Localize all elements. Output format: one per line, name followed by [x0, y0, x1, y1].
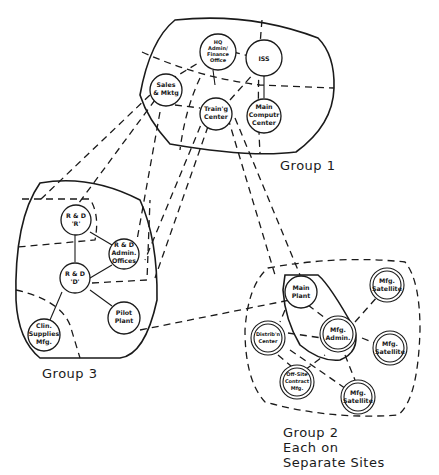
node-rd-d: R & D 'D' [60, 263, 90, 293]
svg-text:R & D: R & D [65, 270, 85, 277]
svg-text:'R': 'R' [72, 220, 81, 227]
node-mfg-satellite-2: Mfg. Satellite [373, 331, 407, 365]
link-sales-rd [70, 100, 155, 215]
svg-text:'D': 'D' [70, 278, 79, 285]
link-training-mainplant-2 [235, 118, 300, 275]
svg-text:Offices: Offices [112, 257, 136, 264]
svg-text:Sales: Sales [157, 81, 176, 88]
node-main-computer-center: Main Computr Center [247, 99, 281, 133]
svg-text:Distrib'n: Distrib'n [256, 331, 281, 337]
node-offsite-contract-mfg: Off-Site Contract Mfg. [280, 365, 314, 399]
node-mfg-satellite-3: Mfg. Satellite [341, 380, 375, 414]
svg-text:Mfg.: Mfg. [350, 389, 366, 397]
link-mainplant-distrib [280, 310, 285, 322]
svg-text:Supplies: Supplies [29, 330, 60, 338]
link-training-iss [230, 72, 255, 100]
node-mfg-satellite-1: Mfg. Satellite [370, 268, 404, 302]
link-sales-training [175, 105, 200, 108]
diagram-svg: HQ Admin/ Finance Office ISS Sales & Mkt… [0, 0, 439, 475]
node-rd-r: R & D 'R' [61, 205, 91, 235]
group1-label: Group 1 [280, 158, 335, 173]
organization-site-diagram: HQ Admin/ Finance Office ISS Sales & Mkt… [0, 0, 439, 475]
svg-text:Plant: Plant [292, 292, 311, 299]
node-clin-supplies-mfg: Clin. Supplies Mfg. [28, 319, 60, 351]
node-hq-admin-finance: HQ Admin/ Finance Office [200, 34, 236, 70]
svg-text:R & D: R & D [114, 241, 134, 248]
link-admin-sat3 [345, 355, 355, 380]
node-training-center: Train'g Center [200, 98, 232, 130]
svg-text:Mfg.: Mfg. [379, 277, 395, 285]
svg-text:Train'g: Train'g [204, 105, 228, 113]
svg-text:Main: Main [292, 284, 309, 291]
group2-label-line1: Group 2 [283, 425, 338, 440]
svg-text:& Mktg: & Mktg [153, 89, 179, 97]
link-training-rdadmin-2 [155, 115, 212, 278]
node-distribution-center: Distrib'n Center [251, 321, 285, 355]
svg-text:Admin.: Admin. [326, 334, 351, 341]
svg-text:Satellite: Satellite [372, 285, 402, 292]
svg-text:Main: Main [255, 103, 272, 110]
link-distrib-admin [288, 333, 322, 338]
svg-text:Plant: Plant [115, 317, 134, 324]
svg-text:Mfg.: Mfg. [330, 326, 346, 334]
svg-text:Mfg.: Mfg. [291, 385, 304, 392]
node-mfg-admin: Mfg. Admin. [320, 316, 356, 352]
svg-text:Off-Site: Off-Site [286, 371, 308, 377]
node-main-plant: Main Plant [285, 276, 317, 308]
svg-text:Center: Center [252, 119, 277, 126]
link-admin-sat1 [355, 296, 378, 322]
svg-text:ISS: ISS [258, 55, 270, 62]
link-rdd-clin [50, 292, 62, 320]
svg-text:Mfg.: Mfg. [36, 338, 52, 346]
link-rdr-rdadmin [90, 232, 112, 245]
svg-text:Contract: Contract [285, 378, 310, 384]
node-iss: ISS [246, 40, 282, 76]
node-pilot-plant: Pilot Plant [108, 302, 140, 334]
svg-text:Office: Office [210, 57, 227, 63]
svg-text:R & D: R & D [66, 212, 86, 219]
svg-text:Clin.: Clin. [36, 322, 52, 329]
group1-partition-left [180, 78, 200, 150]
link-rdd-pilot [90, 290, 112, 306]
group2-label-line3: Separate Sites [283, 455, 385, 470]
group3-label: Group 3 [42, 366, 97, 381]
svg-text:Admin.: Admin. [112, 249, 137, 256]
link-training-rdadmin-1 [145, 115, 205, 260]
svg-text:Center: Center [204, 113, 229, 120]
svg-text:Satellite: Satellite [375, 348, 405, 355]
svg-text:Mfg.: Mfg. [382, 340, 398, 348]
svg-text:Satellite: Satellite [343, 397, 373, 404]
link-rdd-rdadmin [90, 265, 112, 278]
node-sales-marketing: Sales & Mktg [150, 74, 182, 106]
svg-text:Computr: Computr [249, 111, 281, 119]
node-rd-admin-offices: R & D Admin. Offices [109, 239, 139, 269]
link-mainplant-admin [308, 305, 325, 318]
svg-text:Center: Center [259, 338, 278, 344]
group2-label-line2: Each on [283, 440, 338, 455]
svg-text:Pilot: Pilot [116, 309, 132, 316]
